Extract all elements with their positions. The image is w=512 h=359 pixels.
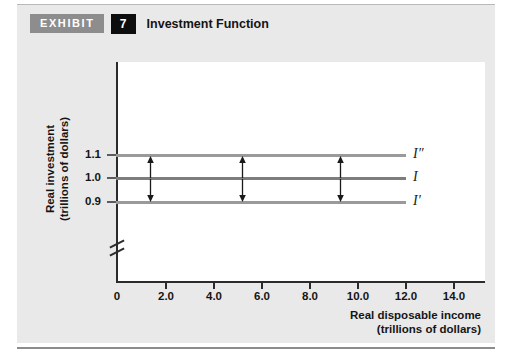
exhibit-title: Investment Function — [147, 17, 269, 31]
shift-arrow-down-1 — [145, 179, 156, 202]
curve-label-i: I — [413, 169, 418, 185]
y-axis-title-main: Real investment — [44, 125, 56, 213]
investment-line-i-double-prime — [116, 154, 406, 157]
x-tick-14 — [453, 282, 455, 289]
curve-label-i-double-prime: I″ — [413, 146, 424, 162]
x-axis-line — [116, 281, 485, 283]
x-tick-10 — [357, 282, 359, 289]
x-tick-4 — [213, 282, 215, 289]
x-tick-label-4: 4.0 — [194, 290, 234, 302]
x-tick-label-2: 2.0 — [146, 290, 186, 302]
x-axis-title-units: (trillions of dollars) — [377, 323, 481, 335]
y-tick-label-2: 1.0 — [75, 171, 101, 183]
shift-arrow-up-2 — [237, 156, 248, 178]
y-axis-title-units: (trillions of dollars) — [58, 117, 70, 221]
x-tick-label-0: 0 — [97, 290, 137, 302]
y-tick-2 — [107, 177, 116, 179]
x-tick-label-6: 6.0 — [242, 290, 282, 302]
x-axis-title-main: Real disposable income — [350, 309, 481, 321]
y-axis-title: Real investment (trillions of dollars) — [43, 89, 71, 249]
y-tick-1 — [107, 154, 116, 156]
shift-arrow-up-3 — [335, 156, 346, 178]
x-tick-label-14: 14.0 — [434, 290, 474, 302]
x-tick-label-10: 10.0 — [338, 290, 378, 302]
shift-arrow-up-1 — [145, 156, 156, 178]
y-tick-3 — [107, 201, 116, 203]
y-tick-label-1: 1.1 — [75, 148, 101, 160]
x-tick-2 — [165, 282, 167, 289]
curve-label-i-prime: I′ — [413, 193, 421, 209]
exhibit-figure: EXHIBIT 7 Investment Function Real inves… — [0, 0, 512, 359]
x-axis-title: Real disposable income (trillions of dol… — [285, 308, 481, 336]
y-tick-label-3: 0.9 — [75, 195, 101, 207]
plot-area — [116, 62, 485, 282]
investment-line-i — [116, 177, 406, 180]
x-tick-label-8: 8.0 — [290, 290, 330, 302]
exhibit-number-badge: 7 — [111, 14, 136, 34]
exhibit-card: EXHIBIT 7 Investment Function Real inves… — [17, 5, 495, 343]
investment-line-i-prime — [116, 201, 406, 204]
exhibit-header: EXHIBIT 7 Investment Function — [17, 13, 269, 34]
card-bottom-rule — [17, 347, 495, 349]
x-tick-label-12: 12.0 — [386, 290, 426, 302]
exhibit-badge: EXHIBIT — [30, 14, 104, 33]
x-tick-8 — [309, 282, 311, 289]
shift-arrow-down-3 — [335, 179, 346, 202]
x-tick-6 — [261, 282, 263, 289]
x-tick-12 — [405, 282, 407, 289]
shift-arrow-down-2 — [237, 179, 248, 202]
